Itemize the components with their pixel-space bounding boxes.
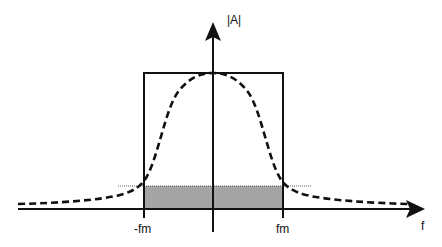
y-axis-label: |A| [227,14,241,26]
x-axis-label: f [421,220,424,232]
spectrum-diagram: |A| f -fm fm [0,0,442,247]
tick-label-neg-fm: -fm [134,223,151,235]
diagram-canvas [0,0,442,247]
tick-label-fm: fm [276,223,289,235]
